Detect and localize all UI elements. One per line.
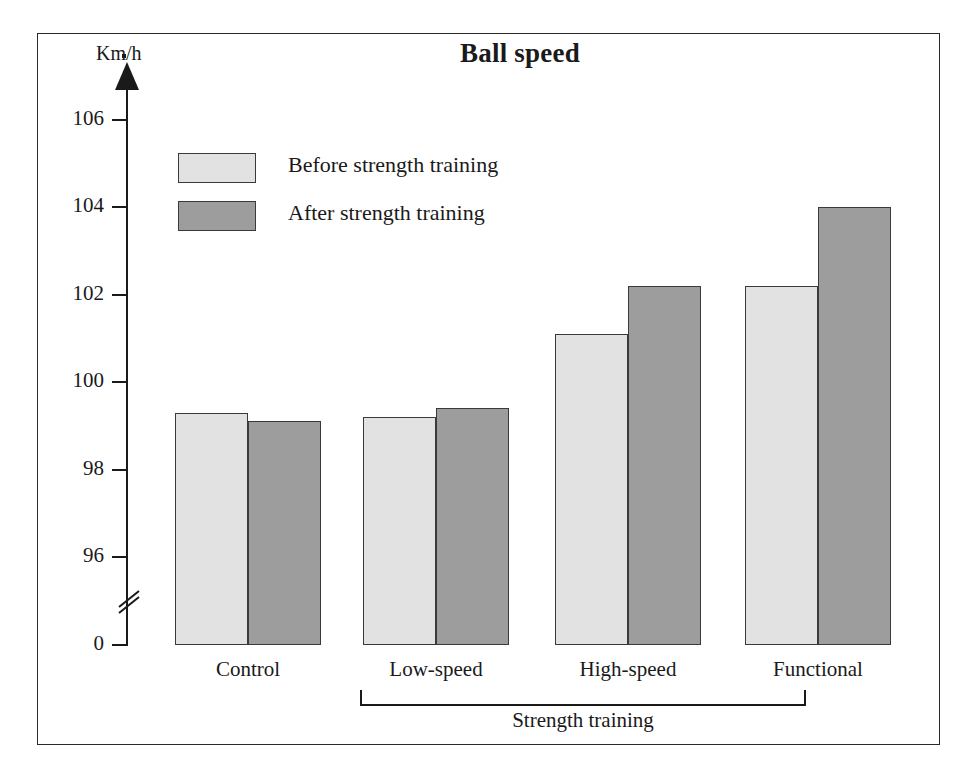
group-bracket-label: Strength training <box>360 708 806 733</box>
x-axis-category-label: Functional <box>705 657 931 682</box>
legend-label-before: Before strength training <box>288 152 498 178</box>
y-axis-arrow-icon <box>115 62 139 90</box>
bar-control-before <box>175 413 248 645</box>
y-axis-tick-mark <box>112 206 128 208</box>
y-axis-tick-mark <box>112 381 128 383</box>
bar-high-speed-before <box>555 334 628 645</box>
y-axis-arrow-cap-icon <box>122 54 126 58</box>
axis-break-icon <box>113 585 143 617</box>
group-bracket <box>360 690 806 706</box>
bar-control-after <box>248 421 321 645</box>
legend-swatch-before <box>178 153 256 183</box>
chart-title: Ball speed <box>340 38 700 69</box>
legend-swatch-after <box>178 201 256 231</box>
y-axis-tick-mark <box>112 556 128 558</box>
y-axis-tick-label: 100 <box>44 368 104 393</box>
y-axis-tick-mark <box>112 469 128 471</box>
bar-functional-after <box>818 207 891 645</box>
bar-functional-before <box>745 286 818 645</box>
y-axis-tick-label: 98 <box>44 456 104 481</box>
y-axis-tick-mark <box>112 644 128 646</box>
y-axis-tick-label: 104 <box>44 193 104 218</box>
legend-label-after: After strength training <box>288 200 485 226</box>
y-axis-tick-label: 96 <box>44 543 104 568</box>
y-axis-tick-mark <box>112 119 128 121</box>
plot-area: Ball speed Km/h 10610410210098960 Contro… <box>0 0 978 779</box>
y-axis-tick-mark <box>112 294 128 296</box>
y-axis-tick-label: 0 <box>44 631 104 656</box>
bar-low-speed-after <box>436 408 509 645</box>
bar-low-speed-before <box>363 417 436 645</box>
figure: Ball speed Km/h 10610410210098960 Contro… <box>0 0 978 779</box>
y-axis-tick-label: 102 <box>44 281 104 306</box>
bar-high-speed-after <box>628 286 701 645</box>
y-axis-line <box>126 86 128 646</box>
y-axis-tick-label: 106 <box>44 106 104 131</box>
